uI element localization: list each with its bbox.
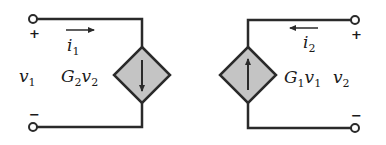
left-bottom-terminal <box>29 123 37 131</box>
left-top-terminal <box>29 15 37 23</box>
right-minus-sign: − <box>351 108 362 123</box>
right-plus-sign: + <box>351 27 362 42</box>
two-port-circuit-diagram: + − i1 v1 G2v2 + − i2 v2 G1v1 <box>0 0 386 145</box>
right-bottom-terminal <box>351 124 359 132</box>
v2-label: v2 <box>333 67 350 90</box>
v1-label: v1 <box>19 66 36 89</box>
g1v1-label: G1v1 <box>284 67 321 90</box>
g2v2-label: G2v2 <box>61 66 98 89</box>
right-port-circuit: + − i2 v2 G1v1 <box>220 16 362 132</box>
right-bottom-wire <box>248 103 351 128</box>
left-plus-sign: + <box>29 26 40 41</box>
left-bottom-wire <box>37 103 142 127</box>
i1-label: i1 <box>67 35 79 58</box>
right-top-terminal <box>351 16 359 24</box>
left-port-circuit: + − i1 v1 G2v2 <box>19 15 170 131</box>
i2-label: i2 <box>303 32 315 55</box>
right-top-wire <box>248 20 351 47</box>
left-top-wire <box>37 19 142 47</box>
left-minus-sign: − <box>29 107 40 122</box>
